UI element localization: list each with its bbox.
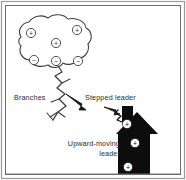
charge-house-plus-3: +: [123, 162, 132, 171]
charge-sign: −: [54, 58, 58, 65]
label-upward-leader: leader: [99, 149, 120, 158]
charge-cloud-plus-3: +: [51, 38, 60, 47]
charge-cloud-minus-2: −: [51, 56, 60, 65]
charge-sign: +: [125, 121, 129, 128]
charge-sign: +: [75, 27, 79, 34]
charge-house-plus-2: +: [130, 138, 139, 147]
charge-sign: −: [76, 58, 80, 65]
label-branches: Branches: [14, 93, 46, 102]
charge-cloud-plus-2: +: [72, 25, 81, 34]
charge-sign: +: [133, 140, 137, 147]
charge-cloud-plus-1: +: [26, 28, 35, 37]
charge-sign: +: [29, 30, 33, 37]
lightning-diagram-figure: + + + − − −: [0, 0, 186, 180]
charge-sign: +: [126, 164, 130, 171]
charge-cloud-minus-3: −: [73, 56, 82, 65]
diagram-canvas: + + + − − −: [0, 0, 186, 180]
charge-sign: −: [32, 57, 36, 64]
label-stepped-leader: Stepped leader: [85, 93, 136, 102]
outer-frame: [2, 2, 185, 179]
charge-cloud-minus-1: −: [29, 55, 38, 64]
charge-sign: +: [54, 40, 58, 47]
label-upward-moving: Upward-moving: [68, 139, 120, 148]
charge-house-plus-1: +: [122, 119, 131, 128]
